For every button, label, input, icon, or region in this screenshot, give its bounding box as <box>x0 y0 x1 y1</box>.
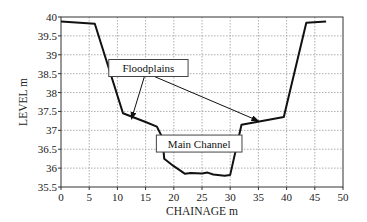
y-tick-label: 36.5 <box>38 143 58 155</box>
x-tick-label: 15 <box>140 191 152 203</box>
x-tick-label: 45 <box>309 191 321 203</box>
x-tick-label: 35 <box>253 191 265 203</box>
x-tick-label: 20 <box>168 191 180 203</box>
x-tick-label: 10 <box>112 191 124 203</box>
y-tick-label: 37 <box>46 124 58 136</box>
x-tick-label: 25 <box>197 191 209 203</box>
x-tick-label: 0 <box>58 191 64 203</box>
x-axis-ticks: 05101520253035404550 <box>58 187 349 203</box>
x-tick-label: 40 <box>281 191 293 203</box>
annotation-label: Floodplains <box>122 62 174 74</box>
cross-section-chart: 35.53636.53737.53838.53939.540 051015202… <box>0 0 367 222</box>
annotation-arrow <box>132 77 145 120</box>
y-tick-label: 36 <box>46 162 58 174</box>
x-tick-label: 5 <box>86 191 92 203</box>
y-tick-label: 39 <box>46 49 58 61</box>
x-tick-label: 50 <box>338 191 350 203</box>
y-tick-label: 38 <box>46 87 58 99</box>
annotation-label: Main Channel <box>168 138 231 150</box>
y-tick-label: 35.5 <box>38 181 58 193</box>
y-axis-ticks: 35.53636.53737.53838.53939.540 <box>38 11 61 193</box>
y-tick-label: 38.5 <box>38 68 58 80</box>
y-tick-label: 40 <box>46 11 58 23</box>
y-tick-label: 39.5 <box>38 30 58 42</box>
y-tick-label: 37.5 <box>38 105 58 117</box>
annotation-arrow <box>154 77 258 121</box>
y-axis-title: LEVEL m <box>17 78 29 126</box>
x-tick-label: 30 <box>225 191 237 203</box>
x-axis-title: CHAINAGE m <box>166 205 238 217</box>
